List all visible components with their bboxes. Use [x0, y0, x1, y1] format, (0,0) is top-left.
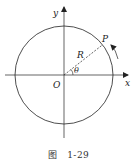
figure-caption: 图1-29 — [0, 148, 137, 161]
angle-label: θ — [74, 66, 79, 75]
rotation-arrow-icon — [111, 45, 118, 59]
caption-number: 1-29 — [67, 150, 89, 160]
angle-arc — [71, 70, 73, 76]
origin-label: O — [53, 80, 61, 90]
x-axis-label: x — [125, 78, 130, 88]
circular-motion-diagram: y x O P R θ — [0, 0, 137, 165]
caption-prefix: 图 — [48, 148, 58, 161]
y-axis-label: y — [52, 8, 59, 18]
radius-label: R — [76, 50, 84, 60]
point-label: P — [101, 34, 109, 44]
